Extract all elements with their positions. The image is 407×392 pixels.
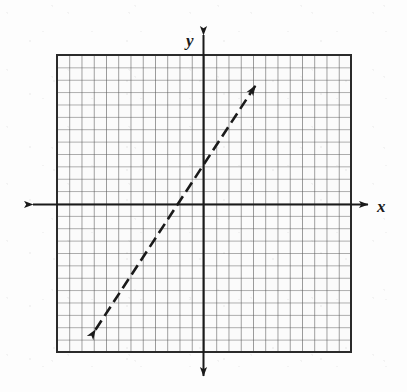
coordinate-plane-svg (0, 0, 407, 392)
y-axis-label: y (186, 32, 194, 49)
x-axis-label: x (377, 198, 386, 215)
graph-figure: y x (0, 0, 407, 392)
